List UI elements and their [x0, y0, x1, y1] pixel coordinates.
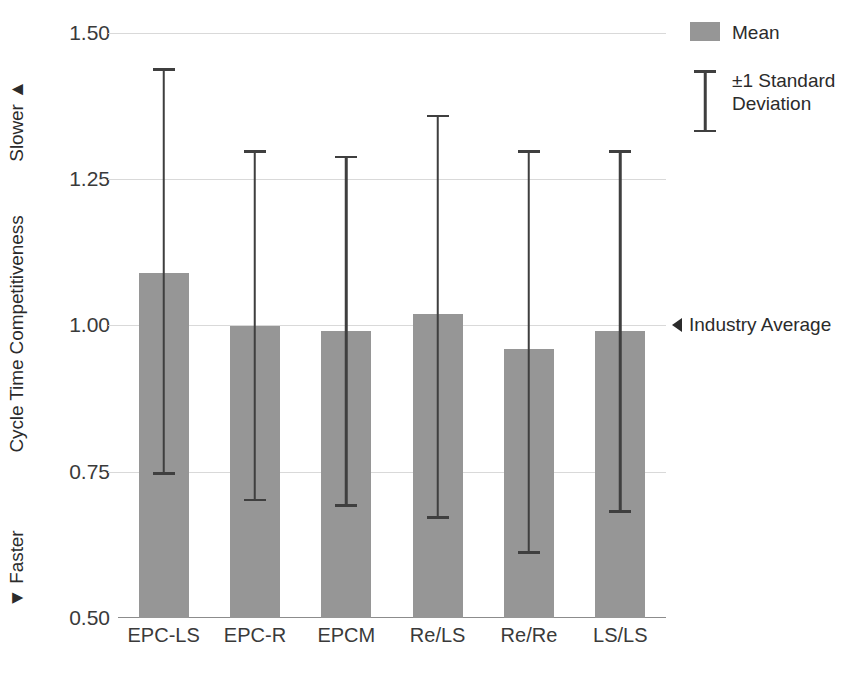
y-axis-slower-label: Slower ▲: [6, 80, 28, 161]
x-label-re-ls: Re/LS: [392, 624, 483, 647]
legend-entry-mean: Mean: [690, 22, 855, 44]
bar-slot-epc-ls: [118, 33, 209, 618]
y-tick-0-75: 0.75: [48, 460, 110, 484]
triangle-left-icon: [672, 318, 682, 332]
y-axis-tick-labels: 1.50 1.25 1.00 0.75 0.50: [34, 0, 110, 675]
bar-slot-epc-r: [209, 33, 300, 618]
legend-label-mean: Mean: [732, 22, 780, 44]
error-bar-epc-r: [244, 150, 266, 501]
legend-label-standard-deviation: ±1 Standard Deviation: [732, 70, 835, 115]
legend-sd-line1: ±1 Standard: [732, 70, 835, 91]
error-bar-ls-ls: [609, 150, 631, 513]
error-bar-icon: [690, 70, 720, 132]
y-axis-title-column: Slower ▲ Cycle Time Competitiveness ▼ Fa…: [0, 18, 34, 628]
y-axis-title: Cycle Time Competitiveness: [6, 215, 28, 452]
x-label-epcm: EPCM: [301, 624, 392, 647]
bar-slot-epcm: [301, 33, 392, 618]
error-bar-re-re: [518, 150, 540, 554]
bar-slot-re-re: [483, 33, 574, 618]
x-label-ls-ls: LS/LS: [575, 624, 666, 647]
error-bar-re-ls: [427, 115, 449, 519]
y-tick-1-25: 1.25: [48, 167, 110, 191]
plot-area: [118, 33, 666, 618]
bar-group: [118, 33, 666, 618]
cycle-time-competitiveness-chart: Slower ▲ Cycle Time Competitiveness ▼ Fa…: [0, 0, 858, 675]
error-bar-epcm: [335, 156, 357, 507]
error-bar-epc-ls: [153, 68, 175, 475]
bar-slot-re-ls: [392, 33, 483, 618]
y-tick-0-50: 0.50: [48, 606, 110, 630]
y-tick-1-00: 1.00: [48, 313, 110, 337]
chart-legend: Mean ±1 Standard Deviation: [690, 22, 855, 158]
legend-sd-line2: Deviation: [732, 93, 811, 114]
y-tick-1-50: 1.50: [48, 21, 110, 45]
y-axis-faster-label: ▼ Faster: [6, 530, 28, 607]
mean-swatch-icon: [690, 22, 720, 41]
industry-average-annotation: Industry Average: [672, 314, 831, 336]
x-axis-tick-labels: EPC-LS EPC-R EPCM Re/LS Re/Re LS/LS: [118, 624, 666, 647]
industry-average-label: Industry Average: [689, 314, 831, 336]
bar-slot-ls-ls: [575, 33, 666, 618]
x-label-re-re: Re/Re: [483, 624, 574, 647]
x-label-epc-r: EPC-R: [209, 624, 300, 647]
x-label-epc-ls: EPC-LS: [118, 624, 209, 647]
legend-entry-standard-deviation: ±1 Standard Deviation: [690, 70, 855, 132]
